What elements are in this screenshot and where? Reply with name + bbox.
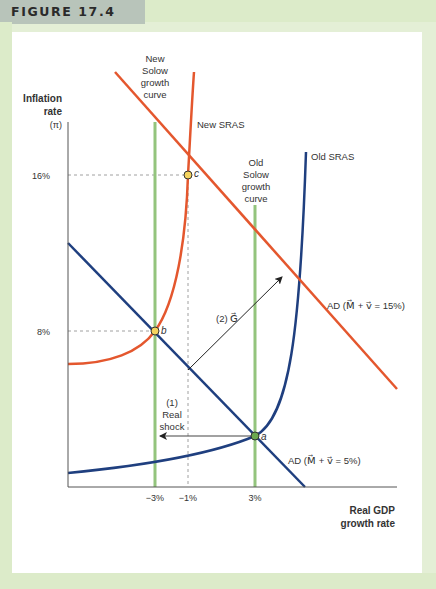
guide-lines: [68, 175, 188, 487]
svg-text:Old: Old: [249, 157, 264, 168]
ad-low-line: [68, 243, 305, 487]
y-label-line2: rate: [44, 106, 63, 117]
point-a: [251, 432, 259, 440]
svg-text:(1): (1): [166, 397, 178, 408]
x-label-line2: growth rate: [341, 518, 396, 529]
x-tick-minus1: −1%: [179, 493, 197, 503]
new-solow-label: New Solow growth curve: [141, 53, 170, 100]
y-tick-16: 16%: [32, 171, 50, 181]
svg-text:growth: growth: [141, 77, 170, 88]
y-tick-8: 8%: [37, 327, 50, 337]
g-arrow-label: (2) G⃗: [216, 312, 238, 324]
point-a-label: a: [261, 431, 267, 442]
svg-text:shock: shock: [160, 421, 185, 432]
svg-text:curve: curve: [244, 193, 267, 204]
x-tick-3: 3%: [248, 493, 261, 503]
svg-text:Solow: Solow: [243, 169, 269, 180]
svg-text:New: New: [145, 53, 164, 64]
x-tick-minus3: −3%: [146, 493, 164, 503]
old-sras-label: Old SRAS: [311, 151, 354, 162]
svg-text:growth: growth: [242, 181, 271, 192]
new-sras-curve: [68, 72, 194, 364]
ad-high-label: AD (M⃗ + v⃗ = 15%): [327, 299, 405, 311]
point-b-label: b: [161, 325, 167, 336]
svg-text:curve: curve: [143, 89, 166, 100]
old-solow-label: Old Solow growth curve: [242, 157, 271, 204]
chart: Inflation rate (π) 16% 8% −3% −1% 3% Rea…: [0, 0, 436, 589]
svg-text:Solow: Solow: [142, 65, 168, 76]
real-shock-label: (1) Real shock: [160, 397, 185, 432]
point-c-label: c: [194, 168, 199, 179]
new-sras-label: New SRAS: [197, 119, 245, 130]
svg-text:Real: Real: [162, 409, 182, 420]
ad-low-label: AD (M⃗ + v⃗ = 5%): [288, 454, 361, 466]
point-c: [184, 171, 192, 179]
y-label-line1: Inflation: [23, 93, 62, 104]
point-b: [151, 327, 159, 335]
y-label-line3: (π): [50, 120, 62, 130]
x-label-line1: Real GDP: [349, 505, 395, 516]
